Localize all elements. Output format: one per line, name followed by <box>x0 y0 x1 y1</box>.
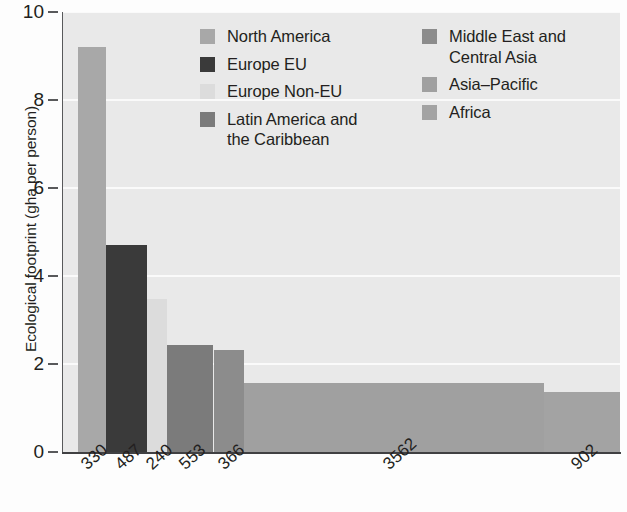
y-tick-label-6: 6 <box>0 178 44 197</box>
legend-swatch-icon <box>200 57 215 72</box>
legend-column-2: Middle East andCentral AsiaAsia–PacificA… <box>422 26 566 129</box>
y-tick-label-2: 2 <box>0 354 44 373</box>
legend-item[interactable]: Asia–Pacific <box>422 74 566 95</box>
legend-item-label: Latin America andthe Caribbean <box>227 109 357 150</box>
legend-item[interactable]: Europe Non-EU <box>200 81 357 102</box>
bar-4 <box>167 345 214 452</box>
bar-1 <box>78 47 106 452</box>
y-tick-label-4: 4 <box>0 266 44 285</box>
legend-item-label: North America <box>227 26 357 47</box>
legend-swatch-icon <box>200 112 215 127</box>
bar-2 <box>106 245 147 452</box>
legend-item[interactable]: Latin America andthe Caribbean <box>200 109 357 150</box>
y-axis-tick-labels: 1086420 <box>0 0 44 512</box>
legend-item[interactable]: North America <box>200 26 357 47</box>
y-tick-label-10: 10 <box>0 2 44 21</box>
bar-6 <box>244 383 544 452</box>
legend-swatch-icon <box>200 29 215 44</box>
legend-item-label: Middle East andCentral Asia <box>449 26 566 67</box>
legend-column-1: North AmericaEurope EUEurope Non-EULatin… <box>200 26 357 157</box>
legend-item[interactable]: Africa <box>422 102 566 123</box>
legend-swatch-icon <box>200 84 215 99</box>
legend-item-label: Europe Non-EU <box>227 81 357 102</box>
legend-item-label: Africa <box>449 102 566 123</box>
bar-5 <box>214 350 245 452</box>
bar-7 <box>544 392 620 452</box>
y-tick-mark-10 <box>48 11 58 12</box>
y-tick-label-0: 0 <box>0 442 44 461</box>
legend-swatch-icon <box>422 77 437 92</box>
y-tick-mark-2 <box>48 363 58 364</box>
legend-item[interactable]: Middle East andCentral Asia <box>422 26 566 67</box>
legend-swatch-icon <box>422 105 437 120</box>
legend-item-label: Asia–Pacific <box>449 74 566 95</box>
legend: North AmericaEurope EUEurope Non-EULatin… <box>200 26 620 176</box>
bar-3 <box>147 299 167 452</box>
y-tick-mark-0 <box>48 451 58 452</box>
x-axis-line <box>62 452 621 454</box>
legend-swatch-icon <box>422 29 437 44</box>
legend-item-label: Europe EU <box>227 54 357 75</box>
y-tick-mark-4 <box>48 275 58 276</box>
gridline-6 <box>63 187 620 189</box>
y-tick-mark-8 <box>48 99 58 100</box>
y-tick-label-8: 8 <box>0 90 44 109</box>
chart-figure: Ecological footprint (gha per person) 10… <box>0 0 627 512</box>
legend-item[interactable]: Europe EU <box>200 54 357 75</box>
gridline-10 <box>63 12 620 13</box>
y-tick-mark-6 <box>48 187 58 188</box>
